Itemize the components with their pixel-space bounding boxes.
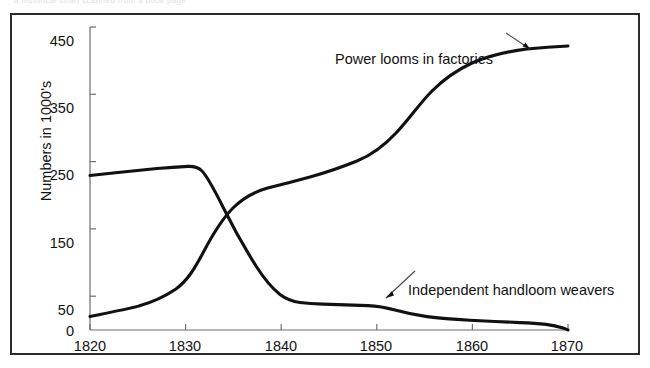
leader-line-power-looms bbox=[506, 33, 530, 49]
y-axis-ticks bbox=[90, 27, 96, 296]
series-line-power-looms bbox=[90, 46, 568, 317]
scan-artifact-top-text: a historical chart scanned from a book p… bbox=[14, 0, 314, 5]
axes-group bbox=[90, 27, 568, 330]
chart-frame: Numbers in 1000's 450 350 250 150 50 0 1… bbox=[10, 13, 640, 355]
chart-figure: a historical chart scanned from a book p… bbox=[0, 0, 650, 368]
leader-line-handloom-weavers bbox=[386, 271, 415, 298]
series-line-handloom-weavers bbox=[90, 166, 568, 330]
chart-plot-area bbox=[12, 15, 638, 353]
x-axis-ticks bbox=[90, 324, 568, 330]
